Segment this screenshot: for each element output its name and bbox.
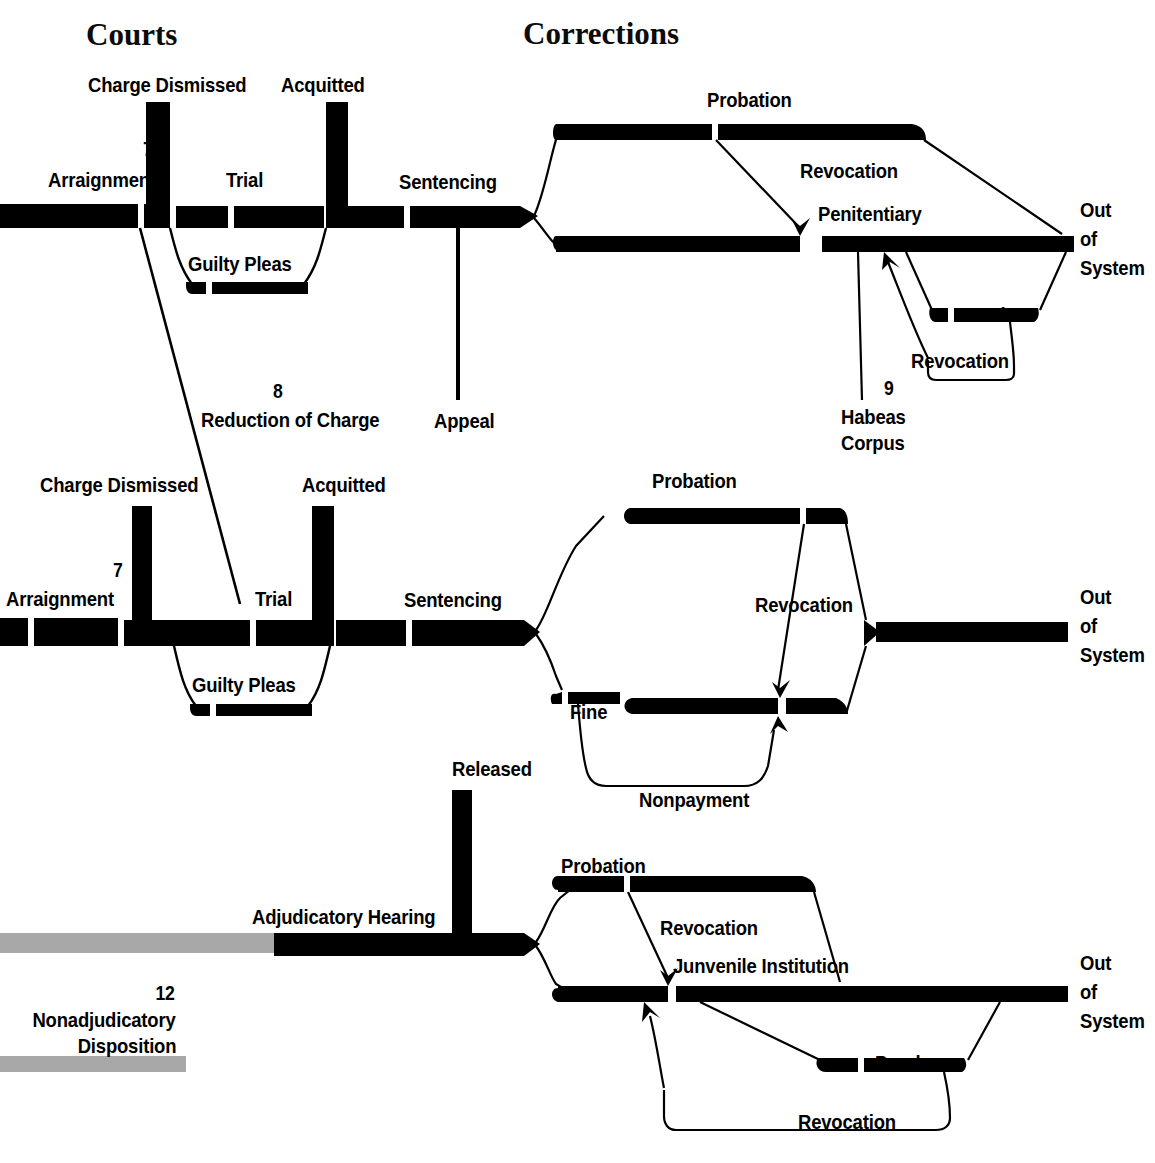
label-parole-felony: Parole — [960, 304, 1015, 326]
label-probation-felony: Probation — [707, 89, 792, 111]
label-appeal: Appeal — [434, 410, 495, 432]
section-title-courts: Courts — [86, 17, 177, 53]
label-parole-juvenile: Parole — [875, 1052, 930, 1074]
label-acquitted-felony: Acquitted — [281, 74, 365, 96]
label-guilty-pleas-felony: Guilty Pleas — [188, 253, 292, 275]
label-reduction-of-charge: Reduction of Charge — [201, 409, 379, 431]
label-arraignment-misdemeanor: Arraignment — [6, 588, 114, 610]
label-fine-misdemeanor: Fine — [570, 701, 607, 723]
label-of-felony: of — [1080, 228, 1097, 250]
label-of-misdemeanor: of — [1080, 615, 1097, 637]
row-juvenile-paths — [0, 790, 1068, 1130]
label-revocation-parole-felony: Revocation — [911, 350, 1009, 372]
label-trial-felony: Trial — [226, 169, 263, 191]
label-charge-dismissed-felony: Charge Dismissed — [88, 74, 246, 96]
flowchart-canvas: Courts Corrections Charge Dismissed Acqu… — [0, 0, 1155, 1163]
label-note-7-misdemeanor: 7 — [113, 560, 123, 581]
label-penitentiary-felony: Penitentiary — [818, 203, 922, 225]
label-revocation-parole-juvenile: Revocation — [798, 1111, 896, 1133]
label-juvenile-institution: Junvenile Institution — [673, 955, 849, 977]
label-sentencing-misdemeanor: Sentencing — [404, 589, 502, 611]
label-probation-misdemeanor: Probation — [652, 470, 737, 492]
label-habeas-corpus-line1: Habeas — [841, 406, 906, 428]
label-note-8: 8 — [273, 381, 283, 402]
label-nonpayment-misdemeanor: Nonpayment — [639, 789, 749, 811]
label-habeas-corpus-line2: Corpus — [841, 432, 905, 454]
label-note-12: 12 — [155, 983, 174, 1004]
label-jail-misdemeanor: Jail — [791, 695, 821, 717]
label-arraignment-felony: Arraignment — [48, 169, 156, 191]
label-adjudicatory-hearing: Adjudicatory Hearing — [252, 906, 435, 928]
label-acquitted-misdemeanor: Acquitted — [302, 474, 386, 496]
label-revocation-probation-misdemeanor: Revocation — [755, 594, 853, 616]
label-guilty-pleas-misdemeanor: Guilty Pleas — [192, 674, 296, 696]
label-system-felony: System — [1080, 257, 1145, 279]
label-note-9-felony: 9 — [884, 378, 894, 399]
label-out-misdemeanor: Out — [1080, 586, 1111, 608]
label-released-juvenile: Released — [452, 758, 532, 780]
label-revocation-probation-felony: Revocation — [800, 160, 898, 182]
label-nonadjudicatory-line1: Nonadjudicatory — [32, 1009, 175, 1031]
label-probation-juvenile: Probation — [561, 855, 646, 877]
label-trial-misdemeanor: Trial — [255, 588, 292, 610]
label-out-felony: Out — [1080, 199, 1111, 221]
label-nonadjudicatory-line2: Disposition — [78, 1035, 177, 1057]
label-note-7-felony: 7 — [143, 139, 153, 160]
label-revocation-probation-juvenile: Revocation — [660, 917, 758, 939]
section-title-corrections: Corrections — [523, 16, 679, 52]
label-system-misdemeanor: System — [1080, 644, 1145, 666]
row-misdemeanor-paths — [0, 506, 1068, 786]
label-out-juvenile: Out — [1080, 952, 1111, 974]
label-charge-dismissed-misdemeanor: Charge Dismissed — [40, 474, 198, 496]
label-of-juvenile: of — [1080, 981, 1097, 1003]
label-sentencing-felony: Sentencing — [399, 171, 497, 193]
label-system-juvenile: System — [1080, 1010, 1145, 1032]
